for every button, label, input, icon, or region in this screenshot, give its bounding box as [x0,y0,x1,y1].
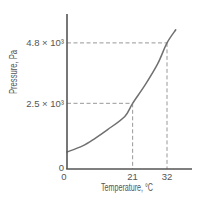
y-axis-label: Pressure, Pa [8,50,19,94]
y-tick-label: 4.8 × 10³ [26,37,64,48]
x-axis-label: Temperature, °C [101,182,153,193]
y-tick-labels: 02.5 × 10³4.8 × 10³ [26,37,64,172]
dashed-guide-lines [67,43,167,169]
x-tick-label: 0 [61,171,66,182]
x-tick-labels: 02132 [61,171,172,182]
y-tick-label: 2.5 × 10³ [26,98,64,109]
x-tick-label: 32 [162,171,173,182]
pressure-curve [67,30,176,152]
vapor-pressure-chart: 02.5 × 10³4.8 × 10³ 02132 Pressure, Pa T… [0,0,199,203]
x-tick-label: 21 [127,171,138,182]
